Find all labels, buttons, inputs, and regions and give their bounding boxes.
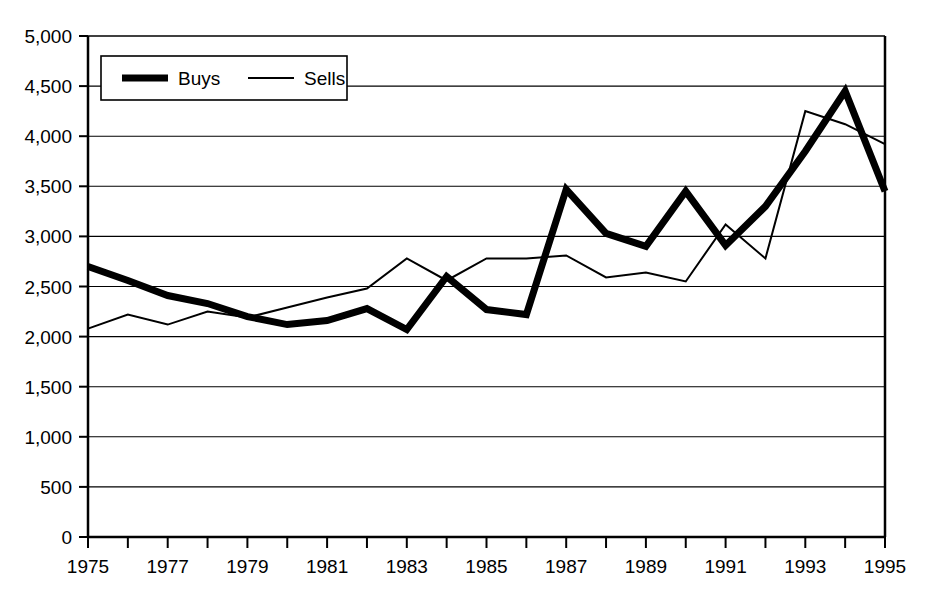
y-axis-tick-label: 2,000: [24, 327, 72, 348]
y-axis-tick-label: 4,000: [24, 126, 72, 147]
x-axis-tick-label: 1985: [465, 556, 507, 577]
x-axis-tick-label: 1975: [67, 556, 109, 577]
legend-label-sells: Sells: [304, 68, 345, 89]
series-line-buys: [88, 91, 885, 329]
y-axis-tick-label: 500: [40, 477, 72, 498]
legend-label-buys: Buys: [178, 68, 220, 89]
x-axis-tick-label: 1989: [625, 556, 667, 577]
y-axis-tick-label: 1,500: [24, 377, 72, 398]
y-axis-tick-label: 5,000: [24, 26, 72, 47]
data-series-layer: [88, 91, 885, 329]
x-axis: 1975197719791981198319851987198919911993…: [67, 537, 906, 577]
x-axis-tick-label: 1983: [386, 556, 428, 577]
x-axis-tick-label: 1981: [306, 556, 348, 577]
y-axis-tick-label: 1,000: [24, 427, 72, 448]
line-chart: 05001,0001,5002,0002,5003,0003,5004,0004…: [0, 0, 925, 603]
x-axis-tick-label: 1987: [545, 556, 587, 577]
y-axis: 05001,0001,5002,0002,5003,0003,5004,0004…: [24, 26, 88, 548]
y-axis-tick-label: 3,000: [24, 226, 72, 247]
chart-legend: Buys Sells: [101, 56, 347, 100]
x-axis-tick-label: 1991: [704, 556, 746, 577]
chart-container: 05001,0001,5002,0002,5003,0003,5004,0004…: [0, 0, 925, 603]
y-axis-tick-label: 2,500: [24, 277, 72, 298]
y-axis-tick-label: 3,500: [24, 176, 72, 197]
x-axis-tick-label: 1979: [226, 556, 268, 577]
x-axis-tick-label: 1995: [864, 556, 906, 577]
x-axis-tick-label: 1993: [784, 556, 826, 577]
series-line-sells: [88, 111, 885, 328]
gridlines: [88, 86, 885, 487]
x-axis-tick-label: 1977: [147, 556, 189, 577]
y-axis-tick-label: 4,500: [24, 76, 72, 97]
y-axis-tick-label: 0: [61, 527, 72, 548]
